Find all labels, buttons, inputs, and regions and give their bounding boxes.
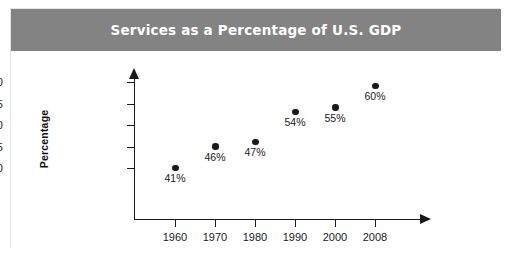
x-tick-label: 1980 [233,231,277,243]
x-tick-label: 1970 [193,231,237,243]
x-axis-arrow-icon [420,214,431,224]
chart-title-bar: Services as a Percentage of U.S. GDP [11,9,501,51]
data-point-label: 55% [315,112,355,124]
y-tick-label: 45 [0,141,3,153]
x-tick-label: 1990 [273,231,317,243]
chart-title: Services as a Percentage of U.S. GDP [11,9,501,51]
x-tick-label: 2000 [313,231,357,243]
x-tick-mark [335,220,336,227]
data-point [292,109,299,116]
y-tick-mark [127,82,134,83]
x-tick-label: 2008 [353,231,397,243]
y-tick-label: 55 [0,98,3,110]
data-point [212,143,219,150]
y-tick-mark [127,147,134,148]
data-point-label: 54% [275,116,315,128]
plot-area: Percentage 60 55 50 45 40 1960 1970 1980… [11,51,501,249]
x-tick-mark [215,220,216,227]
data-point-label: 41% [155,172,195,184]
y-tick-label: 50 [0,119,3,131]
data-point [252,139,259,146]
data-point [332,104,339,111]
y-tick-label: 60 [0,76,3,88]
y-tick-label: 40 [0,162,3,174]
x-axis-line [134,219,422,220]
data-point-label: 46% [195,151,235,163]
data-point-label: 60% [355,90,395,102]
y-tick-mark [127,168,134,169]
x-tick-mark [175,220,176,227]
y-axis-line [134,77,135,220]
x-tick-label: 1960 [153,231,197,243]
y-axis-arrow-icon [129,68,139,79]
y-tick-mark [127,125,134,126]
x-tick-mark [255,220,256,227]
data-point-label: 47% [235,146,275,158]
chart-figure: Services as a Percentage of U.S. GDP Per… [10,8,500,248]
y-tick-mark [127,104,134,105]
data-point [372,83,379,90]
y-axis-title: Percentage [38,84,50,194]
x-tick-mark [295,220,296,227]
x-tick-mark [375,220,376,227]
data-point [172,165,179,172]
